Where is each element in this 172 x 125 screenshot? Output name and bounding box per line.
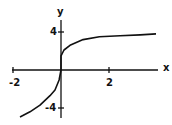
y-tick-label-4: 4 — [50, 27, 57, 37]
x-tick-label-neg2: -2 — [9, 78, 20, 88]
x-axis-label: x — [163, 63, 169, 73]
x-tick-label-2: 2 — [106, 78, 113, 88]
data-curve — [20, 34, 156, 117]
y-tick-label-neg4: -4 — [45, 103, 56, 113]
y-axis-label: y — [57, 7, 64, 17]
chart-plot-area — [0, 0, 172, 125]
